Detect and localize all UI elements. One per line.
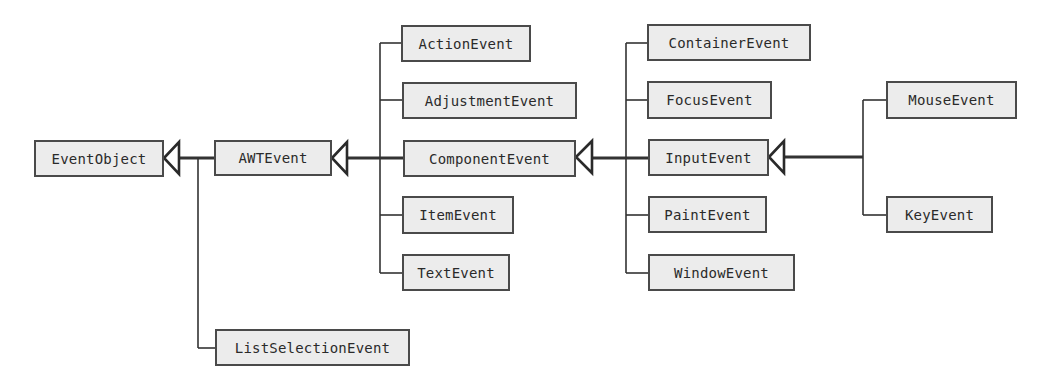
class-label: ListSelectionEvent bbox=[235, 340, 390, 356]
class-box-inputevent: InputEvent bbox=[648, 139, 769, 176]
class-box-containerevent: ContainerEvent bbox=[647, 24, 811, 61]
class-box-itemevent: ItemEvent bbox=[402, 196, 514, 234]
inheritance-arrow-eventobject bbox=[164, 142, 179, 174]
class-box-windowevent: WindowEvent bbox=[648, 254, 795, 291]
class-box-eventobject: EventObject bbox=[34, 140, 164, 177]
class-label: MouseEvent bbox=[908, 92, 994, 108]
class-label: WindowEvent bbox=[674, 265, 769, 281]
class-label: FocusEvent bbox=[666, 92, 752, 108]
class-box-keyevent: KeyEvent bbox=[886, 196, 993, 233]
class-label: ActionEvent bbox=[419, 36, 514, 52]
inheritance-arrow-awtevent bbox=[332, 142, 347, 174]
class-box-textevent: TextEvent bbox=[402, 254, 510, 291]
class-box-mouseevent: MouseEvent bbox=[886, 81, 1017, 119]
class-label: PaintEvent bbox=[664, 207, 750, 223]
class-hierarchy-diagram: EventObject AWTEvent ListSelectionEvent … bbox=[0, 0, 1047, 389]
class-label: ContainerEvent bbox=[669, 35, 790, 51]
class-box-actionevent: ActionEvent bbox=[401, 25, 531, 62]
class-label: TextEvent bbox=[417, 265, 495, 281]
inheritance-arrow-componentevent bbox=[576, 141, 592, 173]
class-label: InputEvent bbox=[665, 150, 751, 166]
class-box-focusevent: FocusEvent bbox=[647, 81, 772, 119]
class-label: ItemEvent bbox=[419, 207, 497, 223]
class-box-paintevent: PaintEvent bbox=[648, 196, 767, 233]
class-box-awtevent: AWTEvent bbox=[214, 140, 332, 176]
class-label: KeyEvent bbox=[905, 207, 974, 223]
class-box-adjustmentevent: AdjustmentEvent bbox=[402, 82, 577, 119]
inheritance-arrow-inputevent bbox=[769, 141, 784, 173]
class-label: EventObject bbox=[52, 151, 147, 167]
class-box-componentevent: ComponentEvent bbox=[403, 140, 576, 177]
class-label: ComponentEvent bbox=[429, 151, 550, 167]
class-box-listselectionevent: ListSelectionEvent bbox=[215, 329, 410, 366]
class-label: AWTEvent bbox=[238, 150, 307, 166]
class-label: AdjustmentEvent bbox=[425, 93, 554, 109]
